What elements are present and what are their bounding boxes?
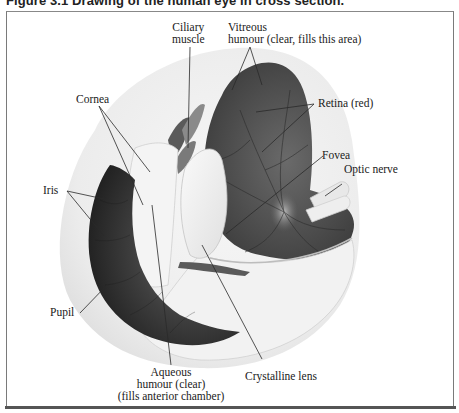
label-ciliary-muscle: Ciliary muscle <box>172 21 205 45</box>
label-vitreous-humour: Vitreous humour (clear, fills this area) <box>228 21 361 45</box>
label-pupil: Pupil <box>50 306 74 318</box>
label-iris: Iris <box>43 184 58 196</box>
label-retina: Retina (red) <box>318 97 373 109</box>
eye-cross-section-illustration <box>0 0 459 413</box>
label-aqueous-humour: Aqueous humour (clear) (fills anterior c… <box>104 366 238 402</box>
label-optic-nerve: Optic nerve <box>344 163 398 175</box>
label-fovea: Fovea <box>322 149 350 161</box>
label-cornea: Cornea <box>76 93 109 105</box>
label-crystalline-lens: Crystalline lens <box>245 370 317 382</box>
